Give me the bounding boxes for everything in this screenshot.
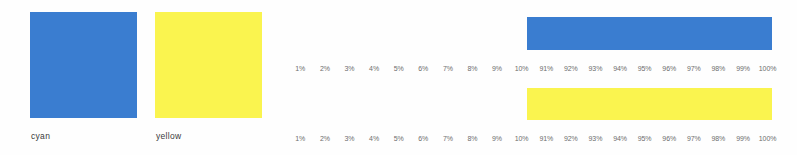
tick-label: 98% — [706, 135, 731, 142]
tick-label: 9% — [485, 65, 510, 72]
tick-label: 1% — [288, 65, 313, 72]
tick-label: 3% — [337, 65, 362, 72]
tick-label: 10% — [509, 135, 534, 142]
color-calibration-strip: { "swatches": { "items": [ { "name": "cy… — [0, 0, 797, 155]
tick-label: 96% — [657, 65, 682, 72]
tick-label: 98% — [706, 65, 731, 72]
tick-label: 7% — [436, 65, 461, 72]
tick-label: 92% — [559, 135, 584, 142]
solid-swatch-group: cyan yellow — [0, 0, 280, 155]
tick-label: 5% — [386, 135, 411, 142]
tick-label: 2% — [313, 65, 338, 72]
tick-label: 99% — [731, 135, 756, 142]
tick-label: 10% — [509, 65, 534, 72]
tick-label: 100% — [755, 135, 780, 142]
tick-scale-bottom: 1%2%3%4%5%6%7%8%9%10%91%92%93%94%95%96%9… — [280, 132, 797, 144]
tick-label: 7% — [436, 135, 461, 142]
tick-label: 95% — [632, 65, 657, 72]
tonal-ramp-group: 1%2%3%4%5%6%7%8%9%10%91%92%93%94%95%96%9… — [280, 0, 797, 155]
tick-label: 93% — [583, 135, 608, 142]
tick-label: 9% — [485, 135, 510, 142]
cyan-swatch-label: cyan — [31, 131, 50, 141]
tick-label: 4% — [362, 65, 387, 72]
tick-label: 8% — [460, 135, 485, 142]
tick-label: 3% — [337, 135, 362, 142]
tick-label: 2% — [313, 135, 338, 142]
tick-label: 8% — [460, 65, 485, 72]
tick-label: 94% — [608, 65, 633, 72]
tick-label: 93% — [583, 65, 608, 72]
tick-label: 6% — [411, 135, 436, 142]
tick-label: 100% — [755, 65, 780, 72]
cyan-color-swatch — [30, 12, 137, 118]
tick-label: 5% — [386, 65, 411, 72]
tick-label: 91% — [534, 65, 559, 72]
tick-label: 95% — [632, 135, 657, 142]
tick-label: 6% — [411, 65, 436, 72]
tick-label: 94% — [608, 135, 633, 142]
tick-label: 4% — [362, 135, 387, 142]
tick-label: 1% — [288, 135, 313, 142]
cyan-tonal-ramp-bar — [527, 17, 772, 50]
tick-label: 97% — [682, 65, 707, 72]
tick-scale-top: 1%2%3%4%5%6%7%8%9%10%91%92%93%94%95%96%9… — [280, 62, 797, 74]
tick-label: 96% — [657, 135, 682, 142]
tick-label: 91% — [534, 135, 559, 142]
tick-label: 92% — [559, 65, 584, 72]
yellow-swatch-label: yellow — [156, 131, 181, 141]
tick-label: 99% — [731, 65, 756, 72]
yellow-color-swatch — [155, 12, 262, 118]
tick-label: 97% — [682, 135, 707, 142]
yellow-tonal-ramp-bar — [527, 88, 772, 120]
